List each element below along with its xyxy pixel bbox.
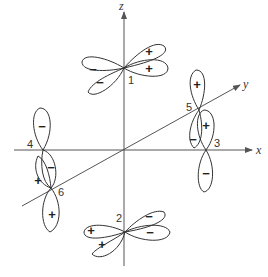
- orbital-2: − − + + 2: [84, 209, 170, 257]
- orbital-label: 3: [214, 137, 220, 149]
- sign: +: [145, 44, 153, 59]
- sign: −: [189, 132, 197, 147]
- orbital-5: + − 5: [186, 70, 205, 148]
- sign: +: [98, 237, 106, 252]
- sign: +: [202, 118, 210, 133]
- orbital-3: + − 3: [197, 110, 220, 192]
- z-axis-label: z: [118, 0, 124, 13]
- orbital-label: 5: [186, 101, 192, 113]
- y-axis: [22, 85, 240, 206]
- sign: −: [96, 75, 104, 90]
- sign: −: [146, 225, 154, 240]
- y-axis-label: y: [242, 77, 249, 91]
- lobe-lower-left: [92, 232, 125, 257]
- sign: −: [38, 119, 46, 134]
- orbital-1: + + − − 1: [82, 44, 168, 95]
- axes: x y z: [14, 0, 262, 266]
- orbital-label: 2: [116, 212, 122, 224]
- sign: +: [193, 77, 201, 92]
- sign: +: [48, 207, 56, 222]
- sign: −: [145, 209, 153, 224]
- orbital-label: 4: [27, 138, 33, 150]
- sign: +: [87, 223, 95, 238]
- sign: +: [34, 173, 42, 188]
- sign: −: [202, 166, 210, 181]
- orbital-diagram: x y z + + − − 1 − − + + 2 + − 5 +: [0, 0, 268, 277]
- sign: +: [145, 61, 153, 76]
- orbital-label: 1: [128, 74, 134, 86]
- x-axis-label: x: [255, 143, 262, 157]
- orbital-label: 6: [58, 186, 64, 198]
